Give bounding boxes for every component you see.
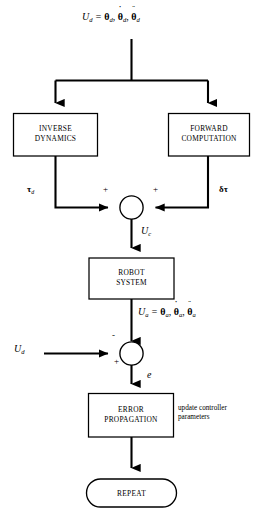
ua-dot-accent: ˙ xyxy=(175,301,178,309)
error-propagation-line-2: PROPAGATION xyxy=(89,415,174,425)
inverse-dynamics-label: INVERSE DYNAMICS xyxy=(14,124,98,143)
summing-junction-lower-plus-left: + xyxy=(114,357,119,366)
tau-subscript: d xyxy=(31,189,34,195)
input-equals: = xyxy=(95,11,102,22)
summing-junction-upper-plus-right: + xyxy=(153,185,158,194)
robot-system-line-1: ROBOT xyxy=(89,268,174,278)
uc-subscript: c xyxy=(148,230,151,237)
forward-computation-label: FORWARD COMPUTATION xyxy=(169,124,250,143)
ud-reference-subscript: d xyxy=(21,348,24,355)
ua-measured-label: Ua = θa, ˙θa, ¨θa xyxy=(138,307,196,319)
update-controller-parameters-note: update controller parameters xyxy=(178,404,227,422)
repeat-terminator-label: REPEAT xyxy=(87,489,177,498)
delta-tau-label: δτ xyxy=(219,185,228,194)
input-ddot-accent: ¨ xyxy=(132,6,135,14)
error-propagation-line-1: ERROR xyxy=(89,405,174,415)
input-dot-accent: ˙ xyxy=(119,6,122,14)
delta-tau-symbol: δτ xyxy=(219,184,228,194)
update-note-line-1: update controller xyxy=(178,404,227,413)
summing-junction-upper-plus-left: + xyxy=(103,185,108,194)
connector-delta-tau-path xyxy=(156,156,209,208)
forward-computation-line-2: COMPUTATION xyxy=(169,134,250,144)
inverse-dynamics-line-2: DYNAMICS xyxy=(14,134,98,144)
diagram-connectors-layer xyxy=(0,0,259,516)
uc-label: Uc xyxy=(141,226,151,238)
desired-trajectory-input-label: Ud = θd, ˙θd, ¨θd xyxy=(82,12,140,24)
update-note-line-2: parameters xyxy=(178,413,227,422)
block-diagram-canvas: Ud = θd, ˙θd, ¨θd INVERSE DYNAMICS FORWA… xyxy=(0,0,259,516)
input-theta-2-subscript: d xyxy=(137,16,140,23)
ua-theta-2-subscript: a xyxy=(193,311,196,318)
ud-reference-label: Ud xyxy=(14,344,25,356)
error-propagation-label: ERROR PROPAGATION xyxy=(89,405,174,424)
connector-tau-d-path xyxy=(56,156,109,208)
inverse-dynamics-line-1: INVERSE xyxy=(14,124,98,134)
tau-d-label: τd xyxy=(27,185,34,195)
summing-junction-lower-shape xyxy=(120,342,143,365)
error-label: e xyxy=(147,370,151,381)
ua-equals: = xyxy=(151,306,158,317)
robot-system-line-2: SYSTEM xyxy=(89,278,174,288)
summing-junction-upper-shape xyxy=(120,196,143,219)
forward-computation-line-1: FORWARD xyxy=(169,124,250,134)
robot-system-label: ROBOT SYSTEM xyxy=(89,268,174,287)
ua-ddot-accent: ¨ xyxy=(188,301,191,309)
summing-junction-lower-minus-top: - xyxy=(112,331,115,340)
